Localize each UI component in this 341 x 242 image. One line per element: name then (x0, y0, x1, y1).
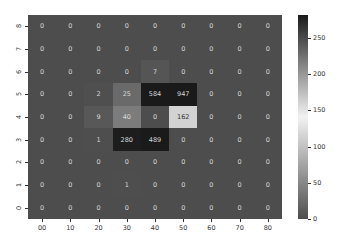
colorbar-tick-mark (308, 147, 311, 148)
heatmap-cell: 0 (84, 15, 112, 38)
heatmap-cell: 0 (197, 151, 225, 174)
heatmap-cell: 0 (254, 15, 282, 38)
heatmap-cell: 0 (28, 106, 56, 129)
heatmap-cell: 9 (84, 106, 112, 129)
heatmap-cell: 0 (197, 106, 225, 129)
heatmap-cell: 0 (84, 38, 112, 61)
heatmap-cell: 0 (254, 38, 282, 61)
colorbar-tick-label: 200 (313, 70, 325, 78)
heatmap-cell: 0 (169, 196, 197, 219)
y-tick-label: 7 (14, 44, 24, 54)
colorbar-tick-label: 150 (313, 106, 325, 114)
y-tick-label: 5 (14, 89, 24, 99)
heatmap-cell: 1 (84, 128, 112, 151)
heatmap-cell: 0 (226, 128, 254, 151)
heatmap-cell: 0 (56, 15, 84, 38)
heatmap-cell: 0 (141, 196, 169, 219)
heatmap-cell: 0 (197, 174, 225, 197)
heatmap-cell: 0 (56, 151, 84, 174)
x-tick-label: 80 (258, 224, 278, 232)
colorbar-tick-mark (308, 38, 311, 39)
heatmap-cell: 0 (141, 174, 169, 197)
heatmap-cell: 0 (226, 60, 254, 83)
x-tick-label: 70 (230, 224, 250, 232)
y-tick-mark (25, 72, 28, 73)
colorbar-tick-label: 250 (313, 34, 325, 42)
x-tick-label: 50 (173, 224, 193, 232)
heatmap-cell: 0 (254, 196, 282, 219)
heatmap-cell: 0 (28, 174, 56, 197)
heatmap-cell: 0 (28, 151, 56, 174)
heatmap-cell: 162 (169, 106, 197, 129)
heatmap-cell: 0 (113, 38, 141, 61)
heatmap-cell: 0 (56, 106, 84, 129)
y-tick-label: 2 (14, 157, 24, 167)
heatmap-cell: 0 (141, 15, 169, 38)
heatmap-cell: 0 (226, 196, 254, 219)
heatmap-cell: 2 (84, 83, 112, 106)
colorbar-tick-mark (308, 110, 311, 111)
heatmap-cell: 0 (169, 60, 197, 83)
heatmap-cell: 0 (113, 15, 141, 38)
heatmap-cell: 25 (113, 83, 141, 106)
x-tick-mark (42, 219, 43, 222)
heatmap-cell: 0 (84, 151, 112, 174)
colorbar-tick-label: 50 (313, 179, 321, 187)
heatmap-cell: 0 (254, 106, 282, 129)
heatmap-cell: 0 (254, 151, 282, 174)
heatmap-cell: 489 (141, 128, 169, 151)
heatmap-cell: 0 (226, 174, 254, 197)
heatmap-cell: 0 (226, 15, 254, 38)
heatmap-cell: 0 (28, 83, 56, 106)
colorbar-tick-label: 0 (313, 215, 317, 223)
y-tick-mark (25, 162, 28, 163)
x-tick-mark (211, 219, 212, 222)
x-tick-label: 20 (89, 224, 109, 232)
y-tick-mark (25, 26, 28, 27)
heatmap-cell: 40 (113, 106, 141, 129)
y-tick-label: 3 (14, 135, 24, 145)
y-tick-label: 6 (14, 67, 24, 77)
y-tick-label: 8 (14, 21, 24, 31)
heatmap-cell: 0 (28, 128, 56, 151)
heatmap-cell: 7 (141, 60, 169, 83)
heatmap-cell: 0 (226, 106, 254, 129)
heatmap-cell: 280 (113, 128, 141, 151)
heatmap-cell: 0 (197, 38, 225, 61)
heatmap-cell: 0 (28, 60, 56, 83)
heatmap-cell: 0 (226, 38, 254, 61)
x-tick-mark (127, 219, 128, 222)
x-tick-mark (268, 219, 269, 222)
heatmap-cell: 0 (28, 196, 56, 219)
x-tick-mark (240, 219, 241, 222)
heatmap-cell: 0 (169, 15, 197, 38)
heatmap-cell: 0 (197, 83, 225, 106)
heatmap-cell: 947 (169, 83, 197, 106)
heatmap-cell: 0 (169, 151, 197, 174)
heatmap-cell: 0 (169, 174, 197, 197)
heatmap-cell: 0 (169, 38, 197, 61)
x-tick-mark (155, 219, 156, 222)
y-tick-mark (25, 94, 28, 95)
heatmap-cell: 0 (84, 196, 112, 219)
colorbar-tick-label: 100 (313, 143, 325, 151)
heatmap-cell: 0 (254, 174, 282, 197)
heatmap-cell: 0 (84, 60, 112, 83)
y-tick-mark (25, 117, 28, 118)
heatmap-cell: 584 (141, 83, 169, 106)
heatmap-cell: 0 (56, 38, 84, 61)
colorbar (298, 15, 308, 219)
heatmap-cell: 0 (197, 60, 225, 83)
x-tick-mark (70, 219, 71, 222)
heatmap-cell: 1 (113, 174, 141, 197)
heatmap-plot-area: 0000000000000000000000700000022558494700… (28, 15, 282, 219)
x-tick-label: 40 (145, 224, 165, 232)
heatmap-cell: 0 (226, 151, 254, 174)
x-tick-label: 00 (32, 224, 52, 232)
heatmap-cell: 0 (254, 60, 282, 83)
heatmap-cell: 0 (141, 151, 169, 174)
y-tick-mark (25, 208, 28, 209)
heatmap-cell: 0 (113, 196, 141, 219)
x-tick-mark (99, 219, 100, 222)
heatmap-cell: 0 (254, 128, 282, 151)
